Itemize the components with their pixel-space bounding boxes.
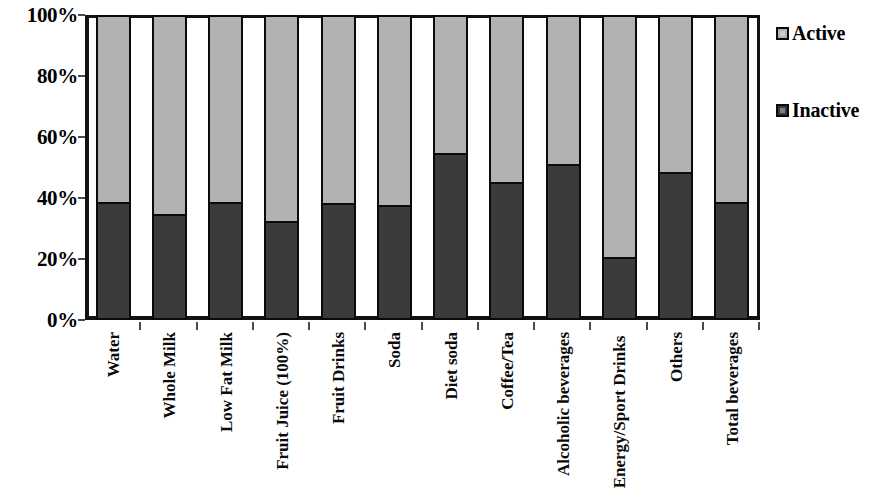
x-tick-mark bbox=[591, 322, 647, 330]
bar-segment-inactive[interactable] bbox=[210, 204, 241, 318]
bar-slot bbox=[479, 15, 535, 320]
bar-segment-active[interactable] bbox=[266, 17, 297, 223]
x-axis-tick-label: Others bbox=[666, 332, 685, 382]
x-label-cell: Water bbox=[85, 332, 141, 497]
x-tick-mark bbox=[310, 322, 366, 330]
x-axis-tick-label: Alcoholic beverages bbox=[554, 332, 573, 476]
x-axis-tick-label: Low Fat Milk bbox=[216, 332, 235, 432]
stacked-bar[interactable] bbox=[321, 15, 356, 320]
bar-segment-active[interactable] bbox=[379, 17, 410, 207]
y-tick-mark bbox=[78, 319, 85, 321]
y-tick-label: 80% bbox=[0, 64, 78, 89]
bar-slot bbox=[591, 15, 647, 320]
x-axis-tick-label: Energy/Sport Drinks bbox=[610, 332, 629, 492]
bar-segment-inactive[interactable] bbox=[154, 216, 185, 318]
stacked-bar[interactable] bbox=[433, 15, 468, 320]
bar-segment-active[interactable] bbox=[435, 17, 466, 155]
bars-layer bbox=[85, 15, 760, 320]
bar-segment-active[interactable] bbox=[154, 17, 185, 216]
bar-segment-inactive[interactable] bbox=[323, 205, 354, 318]
x-tick-mark bbox=[366, 322, 422, 330]
bar-slot bbox=[85, 15, 141, 320]
x-tick-mark bbox=[85, 322, 141, 330]
x-axis-tick-label: Fruit Juice (100%) bbox=[272, 332, 291, 470]
bar-segment-active[interactable] bbox=[210, 17, 241, 204]
x-label-cell: Soda bbox=[366, 332, 422, 497]
x-tick-mark bbox=[254, 322, 310, 330]
legend-item[interactable]: Inactive bbox=[776, 99, 874, 122]
x-axis-tick-label: Diet soda bbox=[441, 332, 460, 400]
x-axis-tick-label: Water bbox=[104, 332, 123, 377]
y-tick-label: 20% bbox=[0, 247, 78, 272]
stacked-bar[interactable] bbox=[602, 15, 637, 320]
y-tick-mark bbox=[78, 258, 85, 260]
bar-slot bbox=[704, 15, 760, 320]
stacked-bar[interactable] bbox=[264, 15, 299, 320]
legend-label: Active bbox=[792, 22, 845, 45]
y-tick-label: 60% bbox=[0, 125, 78, 150]
y-axis: 0%20%40%60%80%100% bbox=[0, 0, 78, 500]
bar-slot bbox=[648, 15, 704, 320]
x-label-cell: Coffee/Tea bbox=[479, 332, 535, 497]
legend-item[interactable]: Active bbox=[776, 22, 874, 45]
bar-segment-active[interactable] bbox=[716, 17, 747, 204]
stacked-bar-chart: 0%20%40%60%80%100% WaterWhole MilkLow Fa… bbox=[0, 0, 874, 500]
x-label-cell: Fruit Juice (100%) bbox=[254, 332, 310, 497]
bar-segment-inactive[interactable] bbox=[379, 207, 410, 318]
legend-swatch-icon bbox=[776, 27, 789, 40]
y-tick-label: 40% bbox=[0, 186, 78, 211]
bar-slot bbox=[535, 15, 591, 320]
bar-segment-inactive[interactable] bbox=[435, 155, 466, 318]
bar-segment-active[interactable] bbox=[604, 17, 635, 259]
bar-segment-inactive[interactable] bbox=[716, 204, 747, 318]
stacked-bar[interactable] bbox=[714, 15, 749, 320]
bar-segment-inactive[interactable] bbox=[604, 259, 635, 318]
x-label-cell: Diet soda bbox=[423, 332, 479, 497]
y-tick-mark bbox=[78, 197, 85, 199]
x-axis-ticks bbox=[85, 322, 760, 330]
legend-label: Inactive bbox=[792, 99, 859, 122]
x-label-cell: Others bbox=[648, 332, 704, 497]
stacked-bar[interactable] bbox=[208, 15, 243, 320]
stacked-bar[interactable] bbox=[658, 15, 693, 320]
bar-slot bbox=[310, 15, 366, 320]
bar-segment-active[interactable] bbox=[660, 17, 691, 174]
bar-slot bbox=[423, 15, 479, 320]
x-tick-mark bbox=[535, 322, 591, 330]
stacked-bar[interactable] bbox=[152, 15, 187, 320]
x-tick-mark bbox=[648, 322, 704, 330]
stacked-bar[interactable] bbox=[96, 15, 131, 320]
x-tick-mark bbox=[198, 322, 254, 330]
y-tick-label: 100% bbox=[0, 3, 78, 28]
x-label-cell: Fruit Drinks bbox=[310, 332, 366, 497]
stacked-bar[interactable] bbox=[489, 15, 524, 320]
x-tick-mark bbox=[704, 322, 760, 330]
bar-segment-active[interactable] bbox=[323, 17, 354, 205]
x-axis-tick-label: Total beverages bbox=[722, 332, 741, 445]
bar-segment-inactive[interactable] bbox=[548, 166, 579, 318]
bar-slot bbox=[366, 15, 422, 320]
x-axis-tick-label: Whole Milk bbox=[160, 332, 179, 418]
bar-segment-active[interactable] bbox=[98, 17, 129, 204]
x-tick-mark bbox=[479, 322, 535, 330]
bar-segment-inactive[interactable] bbox=[660, 174, 691, 318]
chart-legend: ActiveInactive bbox=[776, 22, 874, 176]
stacked-bar[interactable] bbox=[546, 15, 581, 320]
bar-segment-inactive[interactable] bbox=[491, 184, 522, 318]
bar-segment-active[interactable] bbox=[491, 17, 522, 184]
bar-slot bbox=[254, 15, 310, 320]
bar-slot bbox=[198, 15, 254, 320]
x-axis-tick-label: Coffee/Tea bbox=[497, 332, 516, 410]
x-label-cell: Low Fat Milk bbox=[198, 332, 254, 497]
bar-segment-inactive[interactable] bbox=[266, 223, 297, 318]
x-tick-mark bbox=[141, 322, 197, 330]
bar-segment-active[interactable] bbox=[548, 17, 579, 166]
x-label-cell: Alcoholic beverages bbox=[535, 332, 591, 497]
stacked-bar[interactable] bbox=[377, 15, 412, 320]
y-tick-mark bbox=[78, 75, 85, 77]
x-label-cell: Energy/Sport Drinks bbox=[591, 332, 647, 497]
bar-slot bbox=[141, 15, 197, 320]
y-tick-label: 0% bbox=[0, 308, 78, 333]
bar-segment-inactive[interactable] bbox=[98, 204, 129, 318]
y-tick-mark bbox=[78, 136, 85, 138]
